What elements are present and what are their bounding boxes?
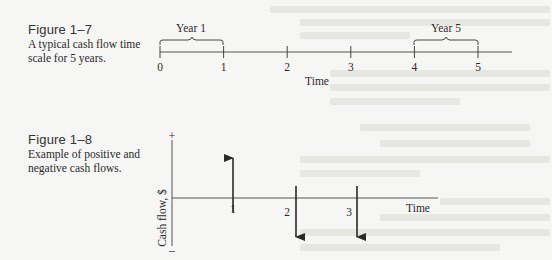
time-tick-label: 1 <box>221 61 227 73</box>
year-1-brace <box>160 37 223 45</box>
plus-sign: + <box>169 129 176 143</box>
flow-3-label: 3 <box>346 206 352 218</box>
time-tick-label: 4 <box>412 61 418 73</box>
time-tick-label: 2 <box>284 61 290 73</box>
figure-1-8-cashflow-diagram: + – Cash flow, $ Time 1 2 3 <box>156 129 438 257</box>
cashflow-y-label: Cash flow, $ <box>156 189 169 247</box>
flow-1-label: 1 <box>230 203 236 215</box>
time-tick-label: 0 <box>157 61 163 73</box>
minus-sign: – <box>168 243 176 257</box>
flow-2-label: 2 <box>284 206 290 218</box>
cashflow-x-label: Time <box>406 202 430 214</box>
year-5-brace <box>414 37 478 45</box>
figures-canvas: 012345 Year 1 Year 5 Time + – Cash flow,… <box>0 0 552 260</box>
time-tick-label: 5 <box>475 61 481 73</box>
time-tick-label: 3 <box>348 61 354 73</box>
year-1-label: Year 1 <box>176 22 206 34</box>
year-5-label: Year 5 <box>431 22 461 34</box>
time-axis-label: Time <box>305 75 329 87</box>
figure-1-7-timeline: 012345 Year 1 Year 5 Time <box>157 22 512 87</box>
